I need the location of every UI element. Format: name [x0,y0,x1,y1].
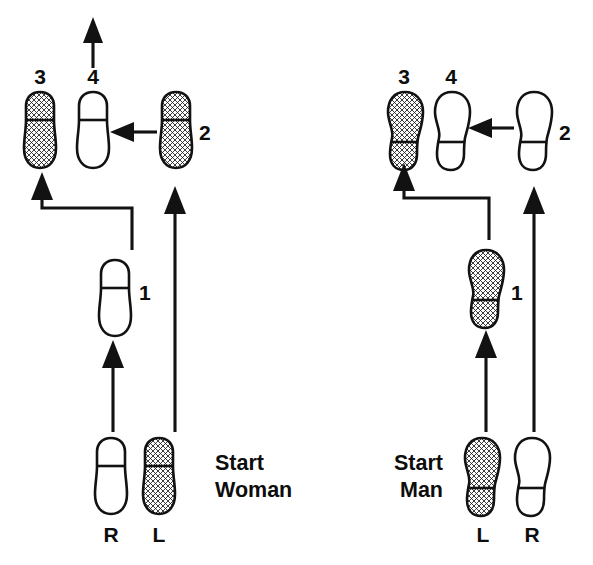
step-label-4-woman: 4 [87,65,99,88]
footprint-start-right-woman [95,438,127,514]
footprint-step-1-man [469,250,504,328]
step-label-1-man: 1 [511,281,523,304]
step-label-3-woman: 3 [34,65,46,88]
footprint-step-3-man [388,92,423,170]
footprint-start-right-man [515,438,550,516]
footprint-step-3-woman [24,92,56,168]
footprint-step-4-man [435,92,470,170]
foot-label-start-right-man: R [524,523,539,546]
footprint-start-left-man [465,438,500,516]
footprint-step-1-woman [99,260,131,336]
foot-label-start-right-woman: R [103,523,118,546]
step-label-2-woman: 2 [199,121,211,144]
foot-label-start-left-man: L [477,523,490,546]
step-label-4-man: 4 [445,65,457,88]
footprint-start-left-woman [143,438,175,514]
start-label-woman-line2: Woman [215,478,292,502]
start-label-woman-line1: Start [215,451,264,475]
diagram-canvas: 3 4 2 1 [0,0,593,565]
footprint-step-2-man [517,92,552,170]
step-label-3-man: 3 [398,65,410,88]
footprint-step-diagram: 3 4 2 1 [0,0,593,565]
step-label-2-man: 2 [559,121,571,144]
start-label-man-line2: Man [400,478,443,502]
footprint-step-4-woman [77,92,109,168]
start-label-man-line1: Start [394,451,443,475]
footprint-step-2-woman [160,92,192,168]
foot-label-start-left-woman: L [153,523,166,546]
step-label-1-woman: 1 [139,281,151,304]
